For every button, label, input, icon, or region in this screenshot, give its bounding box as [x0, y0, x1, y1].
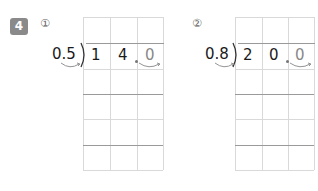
- item-2-dividend-digit-2: 0: [269, 46, 279, 64]
- item-1-divisor-arrow-icon: [60, 62, 82, 70]
- item-1-divisor: 0.5: [52, 45, 76, 63]
- item-1-label: ①: [40, 18, 50, 30]
- item-1-dividend-arrow-icon: [138, 62, 162, 70]
- item-1-division-bar: [86, 43, 164, 44]
- item-1-dividend-digit-1: 1: [91, 46, 101, 64]
- item-1-dividend-digit-2: 4: [118, 46, 128, 64]
- item-2-dividend-arrow-icon: [289, 62, 313, 70]
- item-2-dividend-digit-1: 2: [243, 46, 253, 64]
- item-2-label: ②: [192, 18, 202, 30]
- item-2-divisor-arrow-icon: [214, 62, 236, 70]
- item-2-division-bar: [238, 43, 315, 44]
- item-2-grid: [235, 17, 314, 170]
- item-2-divisor: 0.8: [205, 45, 229, 63]
- item-1-grid: [83, 17, 163, 170]
- problem-badge: 4: [10, 18, 28, 35]
